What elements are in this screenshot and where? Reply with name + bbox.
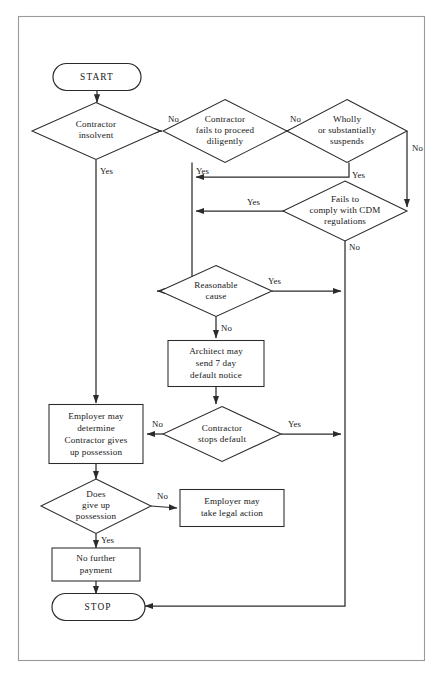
node-employer-determine-possession[interactable]: Employer maydetermineContractor givesup … [49, 405, 143, 464]
edge-label-cdm-yes: Yes [247, 197, 261, 207]
edge-give-up-no-to-legal-action [151, 506, 177, 508]
contractor-insolvent-label: Contractorinsolvent [76, 119, 116, 140]
edge-label-insolvent-no: No [168, 114, 179, 124]
flowchart-page: Contractor fails to proceed diligently -… [0, 0, 443, 677]
edge-label-suspends-yes: Yes [352, 170, 366, 180]
node-fails-cdm-regulations[interactable]: Fails tocomply with CDMregulations [283, 181, 407, 241]
edge-label-give-up-no: No [157, 491, 168, 501]
node-employer-legal-action[interactable]: Employer maytake legal action [180, 490, 284, 527]
node-contractor-stops-default[interactable]: Contractorstops default [163, 407, 281, 462]
edge-label-diligently-yes: Yes [196, 166, 210, 176]
edge-suspends-yes-to-diligently-rail [196, 163, 349, 178]
node-contractor-insolvent[interactable]: Contractorinsolvent [32, 103, 160, 160]
node-does-give-up-possession[interactable]: Doesgive uppossession [41, 479, 151, 534]
node-no-further-payment[interactable]: No furtherpayment [52, 548, 140, 581]
edge-label-stops-no: No [152, 419, 163, 429]
edge-label-suspends-no: No [412, 143, 423, 153]
node-stop[interactable]: STOP [52, 594, 145, 621]
edge-label-stops-yes: Yes [288, 419, 302, 429]
edge-label-reasonable-yes: Yes [268, 276, 282, 286]
contractor-stops-default-label: Contractorstops default [198, 423, 246, 444]
node-reasonable-cause[interactable]: Reasonablecause [160, 266, 272, 317]
node-start[interactable]: START [53, 64, 141, 91]
edge-diligently-yes-to-reasonable [157, 163, 192, 292]
edge-label-reasonable-no: No [221, 323, 232, 333]
node-layer: START Contractorinsolvent Contractorfail… [32, 64, 407, 621]
architect-default-notice-label: Architect maysend 7 daydefault notice [189, 346, 243, 380]
node-architect-default-notice[interactable]: Architect maysend 7 daydefault notice [168, 341, 264, 387]
edge-label-cdm-no: No [349, 242, 360, 252]
edge-label-insolvent-yes: Yes [100, 166, 114, 176]
node-wholly-suspends[interactable]: Whollyor substantiallysuspends [287, 100, 407, 163]
edge-label-give-up-yes: Yes [101, 535, 115, 545]
flowchart-canvas: Contractor fails to proceed diligently -… [0, 0, 443, 677]
stop-label: STOP [84, 602, 111, 612]
edge-label-diligently-no: No [290, 114, 301, 124]
edge-label-layer: No Yes No Yes Yes No Yes No Yes No No Ye… [100, 114, 423, 545]
start-label: START [80, 72, 114, 82]
node-fails-to-proceed-diligently[interactable]: Contractorfails to proceeddiligently [163, 100, 287, 163]
